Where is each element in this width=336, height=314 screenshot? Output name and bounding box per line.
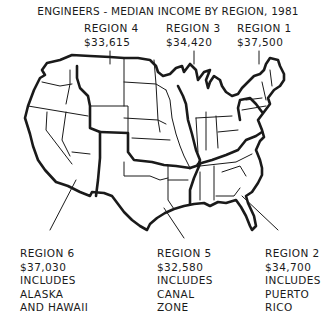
leader-region-5	[164, 208, 184, 238]
region-2-income: $34,700	[265, 261, 321, 275]
region-boundary-3-5-2	[190, 164, 200, 204]
region-1-name: REGION 1	[237, 22, 292, 36]
region-boundary-4-5	[100, 132, 190, 168]
region-6-note-3: AND HAWAII	[20, 301, 88, 314]
region-1-income: $37,500	[237, 36, 292, 50]
region-5-income: $32,580	[157, 261, 213, 275]
region-3-label: REGION 3 $34,420	[166, 22, 221, 49]
region-6-note-2: ALASKA	[20, 288, 88, 302]
region-2-note-2: PUERTO	[265, 288, 321, 302]
leader-region-6	[50, 180, 76, 230]
region-4-name: REGION 4	[84, 22, 139, 36]
leader-region-2	[242, 196, 278, 230]
region-2-note-1: INCLUDES	[265, 274, 321, 288]
region-2-note-3: RICO	[265, 301, 321, 314]
region-boundary-4-6	[77, 66, 100, 196]
region-6-name: REGION 6	[20, 247, 88, 261]
region-4-label: REGION 4 $33,615	[84, 22, 139, 49]
region-1-label: REGION 1 $37,500	[237, 22, 292, 49]
region-3-name: REGION 3	[166, 22, 221, 36]
region-2-name: REGION 2	[265, 247, 321, 261]
region-6-income: $37,030	[20, 261, 88, 275]
region-6-label: REGION 6 $37,030 INCLUDES ALASKA AND HAW…	[20, 247, 88, 314]
region-2-label: REGION 2 $34,700 INCLUDES PUERTO RICO	[265, 247, 321, 314]
region-5-note-2: CANAL	[157, 288, 213, 302]
region-3-income: $34,420	[166, 36, 221, 50]
region-6-note-1: INCLUDES	[20, 274, 88, 288]
state-lines	[28, 58, 272, 209]
region-5-note-3: ZONE	[157, 301, 213, 314]
region-5-name: REGION 5	[157, 247, 213, 261]
region-5-note-1: INCLUDES	[157, 274, 213, 288]
region-boundary-3-2	[198, 132, 262, 164]
region-4-income: $33,615	[84, 36, 139, 50]
region-5-label: REGION 5 $32,580 INCLUDES CANAL ZONE	[157, 247, 213, 314]
